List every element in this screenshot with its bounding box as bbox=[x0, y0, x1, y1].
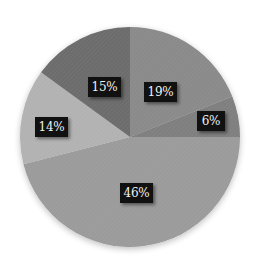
slice-label-15: 15% bbox=[88, 77, 121, 97]
slice-label-19: 19% bbox=[144, 82, 177, 102]
slice-label-46: 46% bbox=[120, 183, 153, 203]
slice-label-14: 14% bbox=[35, 117, 68, 137]
slice-label-6: 6% bbox=[197, 111, 225, 131]
